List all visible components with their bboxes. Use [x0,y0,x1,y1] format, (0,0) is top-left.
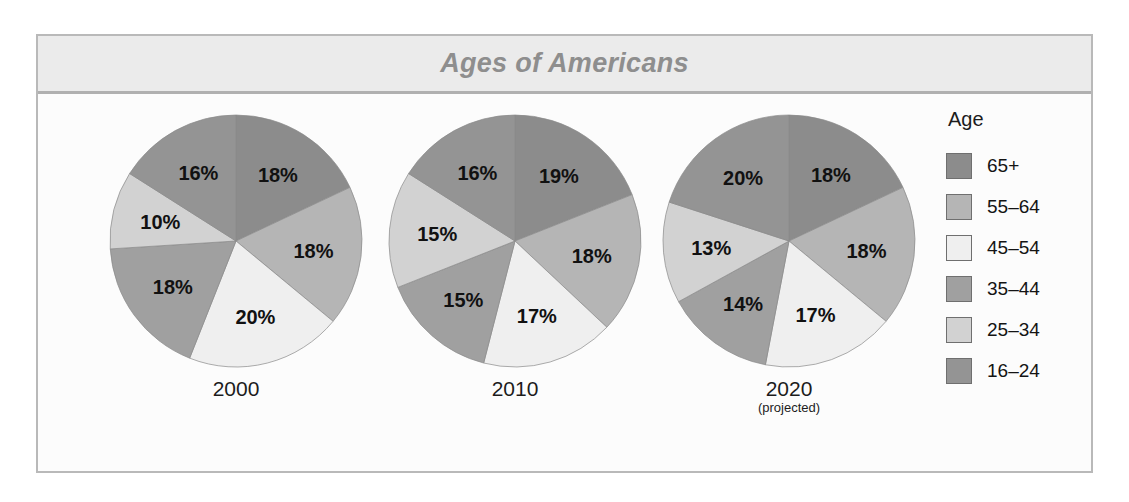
pie-slice-label: 18% [258,164,298,186]
legend-swatch-icon [946,235,972,261]
pie-caption-2020: 2020 (projected) [624,378,954,415]
legend-swatch-icon [946,153,972,179]
pie-slice-label: 18% [846,240,886,262]
pie-caption-sublabel: (projected) [624,401,954,415]
legend-swatch-icon [946,358,972,384]
pie-slice-label: 20% [723,167,763,189]
legend-item-label: 16–24 [987,360,1040,382]
pie-slice-label: 18% [572,245,612,267]
pie-slice-label: 13% [691,237,731,259]
legend-item-label: 55–64 [987,196,1040,218]
legend-item-65plus: 65+ [946,145,1086,186]
legend-item-label: 65+ [987,155,1019,177]
legend-title: Age [946,108,1086,131]
chart-title-band: Ages of Americans [38,36,1091,94]
chart-figure: Ages of Americans 18%18%20%18%10%16% 200… [36,34,1093,473]
legend-item-55-64: 55–64 [946,186,1086,227]
legend-swatch-icon [946,194,972,220]
legend-item-label: 35–44 [987,278,1040,300]
legend-item-45-54: 45–54 [946,227,1086,268]
plot-area: 18%18%20%18%10%16% 2000 19%18%17%15%15%1… [38,94,1091,471]
pie-slice-label: 15% [443,289,483,311]
pie-svg-2020: 18%18%17%14%13%20% [624,110,954,372]
pie-slice-label: 19% [539,165,579,187]
pie-slice-label: 20% [235,306,275,328]
pie-slice-label: 18% [293,240,333,262]
legend-swatch-icon [946,317,972,343]
pie-slice-label: 16% [457,162,497,184]
legend: Age 65+ 55–64 45–54 35–44 25–34 [946,108,1086,391]
legend-swatch-icon [946,276,972,302]
legend-item-label: 45–54 [987,237,1040,259]
pie-chart-2020: 18%18%17%14%13%20% 2020 (projected) [624,110,954,372]
pie-caption-label: 2010 [492,377,539,400]
pie-caption-label: 2000 [213,377,260,400]
pie-slice-label: 18% [811,164,851,186]
legend-item-25-34: 25–34 [946,309,1086,350]
pie-caption-label: 2020 [766,377,813,400]
legend-item-35-44: 35–44 [946,268,1086,309]
pie-slice-label: 17% [517,305,557,327]
legend-item-label: 25–34 [987,319,1040,341]
pie-slice-label: 10% [140,211,180,233]
legend-item-16-24: 16–24 [946,350,1086,391]
page-title: Ages of Americans [440,48,689,79]
pie-slice-label: 14% [723,293,763,315]
pie-slice-label: 17% [795,304,835,326]
pie-slice-label: 16% [178,162,218,184]
pie-slice-label: 15% [417,223,457,245]
pie-slice-label: 18% [153,276,193,298]
